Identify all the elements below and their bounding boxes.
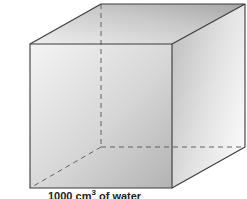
volume-exponent: 3: [91, 188, 95, 197]
volume-suffix: of water: [99, 190, 141, 199]
cube-figure: [0, 0, 247, 199]
cube-diagram: 1000 cm3 of water: [0, 0, 247, 199]
volume-unit: cm: [76, 190, 92, 199]
volume-caption: 1000 cm3 of water: [48, 190, 218, 199]
volume-value: 1000: [48, 190, 72, 199]
